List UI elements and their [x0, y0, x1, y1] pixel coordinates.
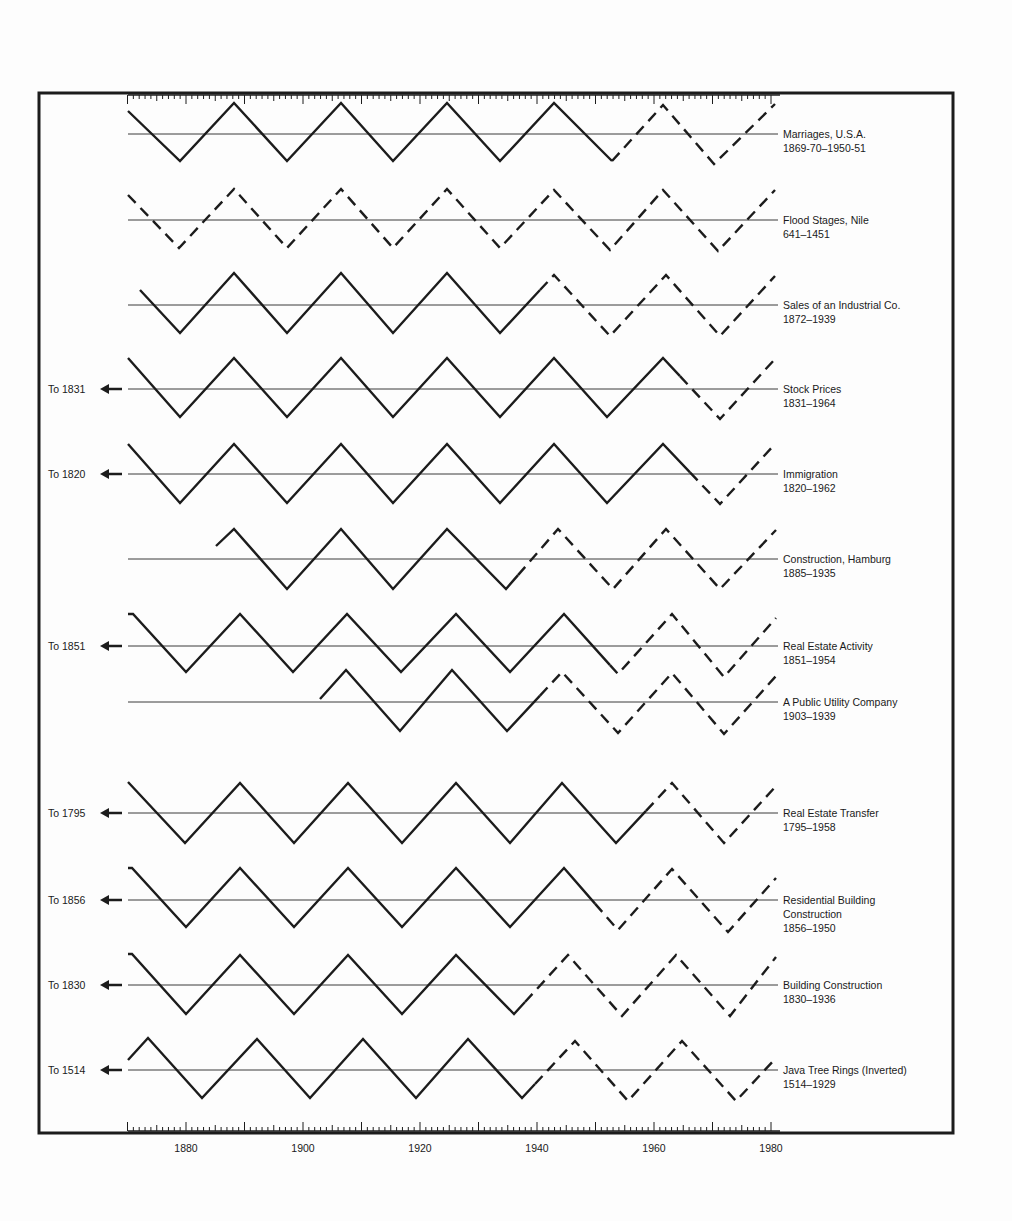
series-rows: Marriages, U.S.A.1869-70–1950-51Flood St… — [48, 103, 907, 1101]
left-arrow-icon — [100, 469, 122, 479]
series-row: Construction, Hamburg1885–1935 — [128, 529, 891, 589]
series-label: Marriages, U.S.A. — [783, 128, 866, 140]
left-arrow-icon — [100, 641, 122, 651]
actual-cycle-line — [320, 670, 540, 731]
series-label: 1869-70–1950-51 — [783, 142, 866, 154]
series-label: 1885–1935 — [783, 567, 836, 579]
actual-cycle-line — [128, 1038, 535, 1098]
series-row: Immigration1820–1962To 1820 — [48, 444, 838, 504]
series-label: 1820–1962 — [783, 482, 836, 494]
series-label: Immigration — [783, 468, 838, 480]
series-row: Residential BuildingConstruction1856–195… — [48, 868, 875, 934]
actual-cycle-line — [128, 868, 595, 927]
series-row: Stock Prices1831–1964To 1831 — [48, 358, 841, 419]
x-tick-label: 1880 — [174, 1142, 198, 1154]
left-arrow-icon — [100, 895, 122, 905]
series-label: Construction, Hamburg — [783, 553, 891, 565]
series-label: A Public Utility Company — [783, 696, 898, 708]
x-tick-label: 1940 — [525, 1142, 549, 1154]
x-tick-label: 1980 — [759, 1142, 783, 1154]
extends-to-label: To 1820 — [48, 468, 86, 480]
series-label: Real Estate Transfer — [783, 807, 879, 819]
actual-cycle-line — [128, 358, 680, 417]
series-label: 1903–1939 — [783, 710, 836, 722]
actual-cycle-line — [140, 273, 540, 333]
series-row: A Public Utility Company1903–1939 — [128, 670, 898, 734]
x-tick-label: 1920 — [408, 1142, 432, 1154]
series-label: 1856–1950 — [783, 922, 836, 934]
series-label: 1831–1964 — [783, 397, 836, 409]
bottom-ruler — [128, 1122, 781, 1131]
series-row: Building Construction1830–1936To 1830 — [48, 954, 882, 1016]
projected-cycle-line — [540, 672, 776, 734]
series-label: 1872–1939 — [783, 313, 836, 325]
series-label: 641–1451 — [783, 228, 830, 240]
extends-to-label: To 1851 — [48, 640, 86, 652]
left-arrow-icon — [100, 808, 122, 818]
extends-to-label: To 1856 — [48, 894, 86, 906]
extends-to-label: To 1514 — [48, 1064, 86, 1076]
top-ruler — [128, 95, 781, 104]
series-row: Flood Stages, Nile641–1451 — [128, 189, 869, 251]
left-arrow-icon — [100, 1065, 122, 1075]
series-label: 1851–1954 — [783, 654, 836, 666]
series-label: Residential Building — [783, 894, 875, 906]
x-tick-label: 1900 — [291, 1142, 315, 1154]
series-row: Real Estate Activity1851–1954To 1851 — [48, 614, 874, 677]
series-label: Sales of an Industrial Co. — [783, 299, 900, 311]
extends-to-label: To 1795 — [48, 807, 86, 819]
series-row: Java Tree Rings (Inverted)1514–1929To 15… — [48, 1038, 907, 1101]
series-label: 1795–1958 — [783, 821, 836, 833]
left-arrow-icon — [100, 980, 122, 990]
extends-to-label: To 1831 — [48, 383, 86, 395]
cycle-chart: Marriages, U.S.A.1869-70–1950-51Flood St… — [0, 0, 1012, 1221]
series-label: Stock Prices — [783, 383, 841, 395]
series-label: Building Construction — [783, 979, 882, 991]
series-label: Flood Stages, Nile — [783, 214, 869, 226]
actual-cycle-line — [128, 614, 610, 672]
projected-cycle-line — [535, 1041, 776, 1101]
actual-cycle-line — [128, 954, 525, 1014]
chart-frame — [39, 93, 953, 1133]
extends-to-label: To 1830 — [48, 979, 86, 991]
x-tick-label: 1960 — [642, 1142, 666, 1154]
series-label: 1514–1929 — [783, 1078, 836, 1090]
series-label: Real Estate Activity — [783, 640, 874, 652]
series-label: Construction — [783, 908, 842, 920]
series-label: 1830–1936 — [783, 993, 836, 1005]
left-arrow-icon — [100, 384, 122, 394]
series-row: Sales of an Industrial Co.1872–1939 — [128, 273, 900, 336]
series-label: Java Tree Rings (Inverted) — [783, 1064, 907, 1076]
actual-cycle-line — [128, 103, 612, 161]
series-row: Real Estate Transfer1795–1958To 1795 — [48, 782, 879, 843]
x-axis-labels: 188019001920194019601980 — [174, 1142, 783, 1154]
series-row: Marriages, U.S.A.1869-70–1950-51 — [128, 103, 866, 164]
